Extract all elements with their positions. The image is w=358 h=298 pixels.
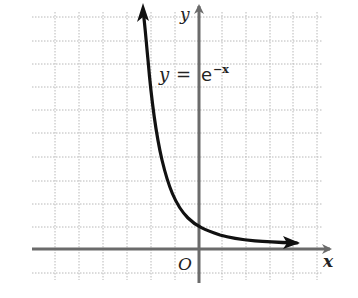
x-axis-label: x xyxy=(322,251,334,271)
y-axis-label: y xyxy=(179,4,190,24)
equation-lhs: y xyxy=(158,64,170,85)
grid xyxy=(32,12,322,280)
exponential-decay-chart: y x O y = e −x xyxy=(0,0,358,298)
equation-base: e xyxy=(201,64,212,85)
curve-equation-label: y = e −x xyxy=(158,63,229,85)
equation-equals: = xyxy=(176,64,191,85)
origin-label: O xyxy=(178,254,192,274)
exponential-curve xyxy=(143,10,297,243)
equation-exponent: −x xyxy=(213,63,229,76)
